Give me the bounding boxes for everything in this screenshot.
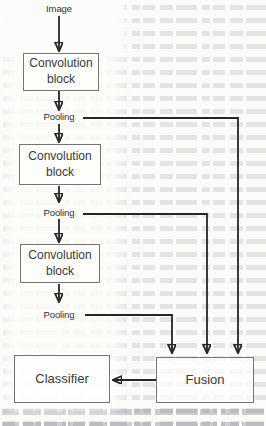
scanned-paper-figure: Image Convolution block Pooling Convolut… bbox=[0, 0, 266, 426]
arrow-pool3-to-fusion bbox=[85, 315, 172, 353]
arrow-pool1-to-fusion bbox=[83, 118, 238, 353]
arrow-pool2-to-fusion bbox=[83, 214, 207, 353]
connector-arrows bbox=[0, 0, 266, 426]
